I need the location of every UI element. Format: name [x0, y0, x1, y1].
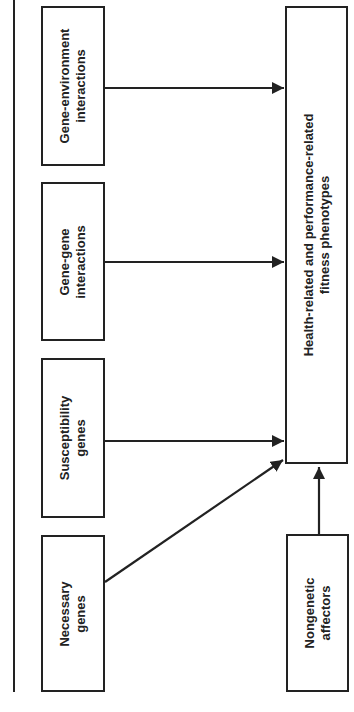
- diagram-canvas: Gene-environment interactions Gene-gene …: [0, 0, 354, 712]
- arrow-necessary-genes: [105, 460, 283, 582]
- arrows-layer: [0, 0, 354, 712]
